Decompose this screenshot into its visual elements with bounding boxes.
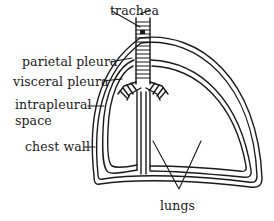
mediastinum-lines [137,92,150,174]
label-visceral-pleura: visceral pleura [13,75,109,88]
label-trachea: trachea [110,4,159,17]
leader-lines [84,10,201,189]
label-intrapleural-space: space [15,114,52,127]
trachea [136,18,150,84]
label-chest-wall: chest wall [25,140,90,153]
label-lungs: lungs [160,199,195,212]
lungs-pleura-diagram: trachea parietal pleura visceral pleura … [0,0,274,221]
label-intrapleural: intrapleural [15,98,92,111]
label-parietal-pleura: parietal pleura [22,55,118,68]
right-lung [150,60,251,177]
